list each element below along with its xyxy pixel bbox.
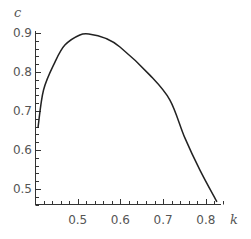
x-tick-label: 0.5: [68, 213, 87, 227]
y-tick-label: 0.8: [13, 65, 32, 79]
y-axis-label: c: [14, 5, 22, 20]
y-tick-label: 0.7: [13, 104, 32, 118]
y-tick-label: 0.9: [13, 26, 32, 40]
x-axis-label: k: [230, 212, 238, 227]
y-tick-label: 0.5: [13, 182, 32, 196]
data-line: [38, 34, 217, 202]
axes: 0.50.60.70.80.90.50.60.70.8: [13, 26, 224, 227]
y-tick-label: 0.6: [13, 143, 32, 157]
x-tick-label: 0.7: [154, 213, 173, 227]
chart-canvas: 0.50.60.70.80.90.50.60.70.8 c k: [0, 0, 251, 239]
x-tick-label: 0.6: [111, 213, 130, 227]
x-tick-label: 0.8: [196, 213, 215, 227]
